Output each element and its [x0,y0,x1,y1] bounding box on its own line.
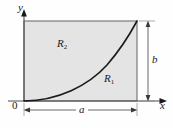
dimension-label-a: a [76,104,88,115]
origin-label: 0 [12,100,18,111]
dimension-a-arrow-right [131,108,138,113]
dimension-b-arrow-top [146,21,151,28]
x-axis-label: x [160,100,165,111]
region-r1-subscript: 1 [111,78,114,85]
dimension-a-arrow-left [24,108,31,113]
y-axis-label: y [18,2,23,13]
region-r1-letter: R [104,72,111,84]
region-label-r1: R1 [104,73,114,85]
dimension-label-b: b [152,53,158,66]
region-r2-letter: R [57,37,64,49]
region-label-r2: R2 [57,38,67,50]
shaded-rectangle [24,21,137,101]
region-r2-subscript: 2 [64,43,67,50]
figure-container: y x 0 R2 R1 a b [0,0,173,128]
